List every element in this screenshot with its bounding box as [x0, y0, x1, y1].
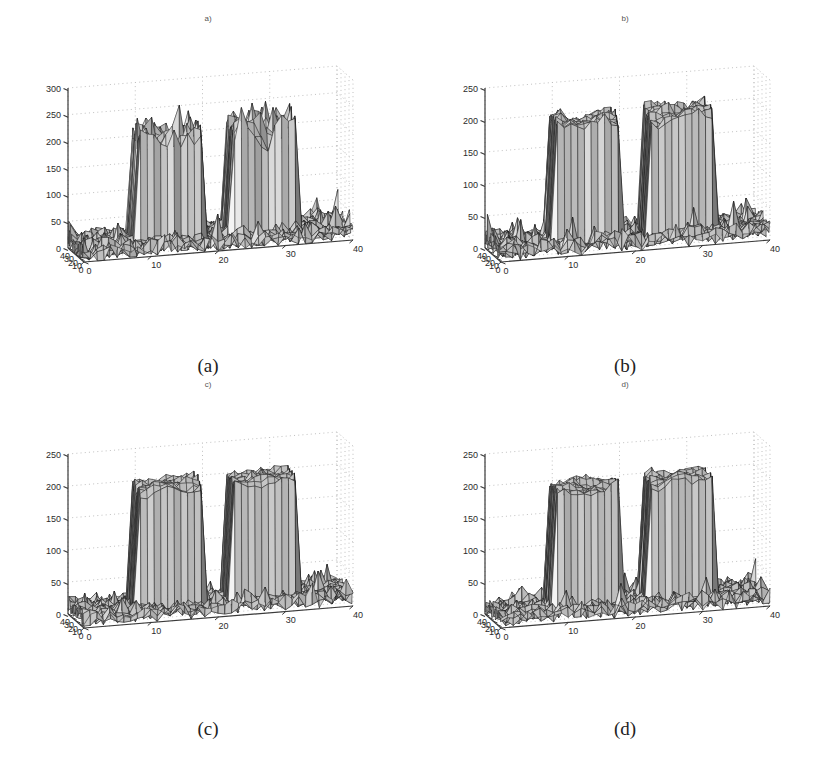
panel-title-b: b)	[417, 14, 833, 23]
plot-panel-b: 050100150200250010203040010203040 b)	[417, 0, 833, 384]
plot-panel-d: 050100150200250010203040010203040 d)	[417, 366, 833, 750]
panel-d-xtick: 30	[703, 615, 713, 625]
figure-caption-c: (c)	[0, 718, 416, 740]
plot-panel-a: 050100150200250300010203040010203040 a)	[0, 0, 416, 384]
panel-b-ztick: 50	[468, 212, 478, 222]
panel-a-xtick: 10	[151, 260, 161, 270]
panel-c-xtick: 40	[353, 610, 363, 620]
panel-b-surface: 050100150200250010203040010203040	[417, 0, 833, 384]
panel-c-xtick: 0	[86, 632, 91, 642]
panel-c-ytick: 40	[60, 617, 70, 627]
panel-a-xtick: 0	[86, 266, 91, 276]
mesh-surface	[68, 466, 353, 627]
panel-d-ztick: 200	[463, 482, 478, 492]
panel-c-ztick: 50	[51, 578, 61, 588]
panel-c-xtick: 10	[151, 626, 161, 636]
panel-c-ztick: 100	[46, 546, 61, 556]
panel-b-xtick: 10	[568, 260, 578, 270]
panel-b-ytick: 40	[477, 251, 487, 261]
panel-title-d: d)	[417, 380, 833, 389]
panel-a-ztick: 100	[46, 190, 61, 200]
panel-a-xtick: 20	[218, 255, 228, 265]
panel-a-xtick: 30	[286, 249, 296, 259]
panel-a-ztick: 150	[46, 164, 61, 174]
panel-c-ztick: 150	[46, 514, 61, 524]
panel-d-ztick: 250	[463, 450, 478, 460]
panel-a-ztick: 300	[46, 84, 61, 94]
panel-b-ztick: 200	[463, 116, 478, 126]
panel-b-ztick: 250	[463, 84, 478, 94]
figure-caption-d: (d)	[417, 718, 833, 740]
panel-d-xtick: 20	[635, 621, 645, 631]
panel-a-ytick: 40	[60, 251, 70, 261]
panel-c-xtick: 30	[286, 615, 296, 625]
plot-panel-c: 050100150200250010203040010203040 c)	[0, 366, 416, 750]
panel-c-ztick: 200	[46, 482, 61, 492]
panel-title-c: c)	[0, 380, 416, 389]
mesh-surface	[68, 101, 353, 261]
panel-b-xtick: 40	[770, 244, 780, 254]
figure-canvas: 050100150200250300010203040010203040 a) …	[0, 0, 833, 769]
panel-a-xtick: 40	[353, 244, 363, 254]
panel-a-ztick: 250	[46, 110, 61, 120]
panel-d-xtick: 10	[568, 626, 578, 636]
panel-c-ztick: 250	[46, 450, 61, 460]
panel-d-ztick: 100	[463, 546, 478, 556]
panel-b-xtick: 30	[703, 249, 713, 259]
panel-d-xtick: 0	[503, 632, 508, 642]
panel-b-xtick: 20	[635, 255, 645, 265]
panel-d-xtick: 40	[770, 610, 780, 620]
panel-title-a: a)	[0, 14, 416, 23]
panel-a-surface: 050100150200250300010203040010203040	[0, 0, 416, 384]
panel-a-ztick: 200	[46, 137, 61, 147]
panel-d-ztick: 150	[463, 514, 478, 524]
panel-b-xtick: 0	[503, 266, 508, 276]
mesh-surface	[485, 466, 770, 625]
panel-b-ztick: 100	[463, 180, 478, 190]
mesh-surface	[485, 96, 770, 260]
panel-c-xtick: 20	[218, 621, 228, 631]
panel-a-ztick: 50	[51, 217, 61, 227]
panel-d-surface: 050100150200250010203040010203040	[417, 366, 833, 750]
panel-d-ytick: 40	[477, 617, 487, 627]
panel-b-ztick: 150	[463, 148, 478, 158]
panel-c-surface: 050100150200250010203040010203040	[0, 366, 416, 750]
panel-d-ztick: 50	[468, 578, 478, 588]
